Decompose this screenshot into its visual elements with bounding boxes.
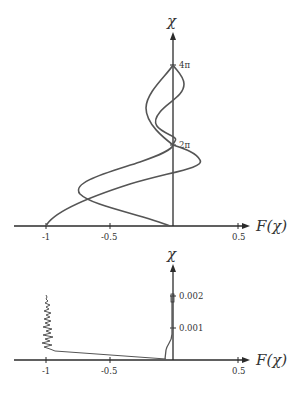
bottom-xtick-neg05: -0.5: [101, 366, 117, 376]
top-ytick-4pi: 4π: [179, 60, 190, 70]
figure: -1 -0.5 0.5 4π 2π χ F(χ) -1 -0.5 0.5 0.0…: [0, 0, 307, 394]
top-chart: -1 -0.5 0.5 4π 2π χ F(χ): [14, 12, 287, 242]
bottom-chart: -1 -0.5 0.5 0.002 0.001 χ F(χ): [14, 245, 287, 376]
top-x-arrow-icon: [242, 223, 250, 229]
top-y-label: χ: [166, 12, 177, 30]
bottom-xtick-05: 0.5: [232, 366, 246, 376]
bottom-x-label: F(χ): [255, 351, 287, 369]
bottom-y-arrow-icon: [170, 264, 176, 272]
top-y-arrow-icon: [170, 32, 176, 40]
bottom-x-arrow-icon: [242, 357, 250, 363]
top-xtick-05: 0.5: [232, 232, 246, 242]
top-curve-b: [78, 65, 184, 226]
bottom-y-label: χ: [166, 245, 177, 263]
bottom-ytick-0001: 0.001: [179, 323, 203, 333]
bottom-ytick-0002: 0.002: [179, 291, 203, 301]
bottom-xtick-neg1: -1: [42, 366, 50, 376]
top-xtick-neg1: -1: [42, 232, 50, 242]
top-xtick-neg05: -0.5: [101, 232, 117, 242]
top-x-label: F(χ): [255, 217, 287, 235]
top-curve-a: [46, 65, 200, 226]
bottom-noisy-curve: [42, 295, 166, 359]
